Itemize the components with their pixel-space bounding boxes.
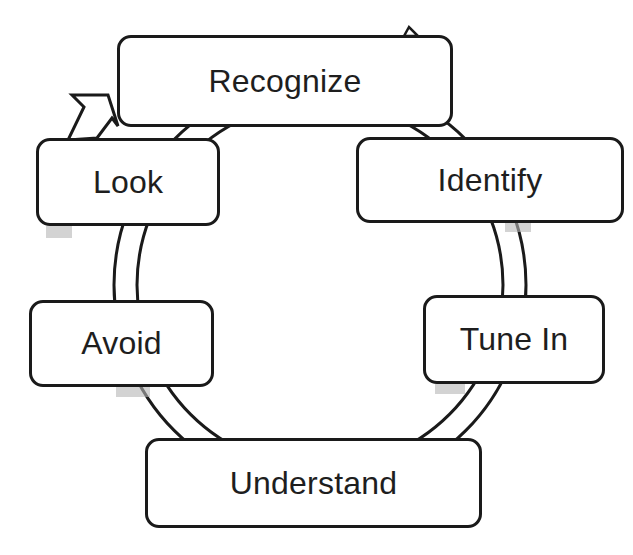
node-label: Identify: [438, 162, 543, 199]
node-label: Look: [93, 164, 163, 201]
node-label: Recognize: [208, 63, 361, 100]
node-look: Look: [36, 138, 220, 226]
node-recognize: Recognize: [117, 35, 453, 127]
ring-shade: [435, 384, 465, 394]
ring-shade: [116, 387, 150, 397]
arrowhead-icon: [68, 95, 118, 140]
node-tune-in: Tune In: [423, 295, 605, 384]
node-understand: Understand: [145, 438, 482, 528]
node-avoid: Avoid: [29, 300, 214, 387]
ring-shade: [505, 222, 531, 232]
node-label: Avoid: [81, 325, 161, 362]
node-label: Understand: [230, 465, 397, 502]
node-identify: Identify: [356, 137, 624, 223]
ring-shade: [46, 226, 72, 238]
node-label: Tune In: [460, 321, 569, 358]
